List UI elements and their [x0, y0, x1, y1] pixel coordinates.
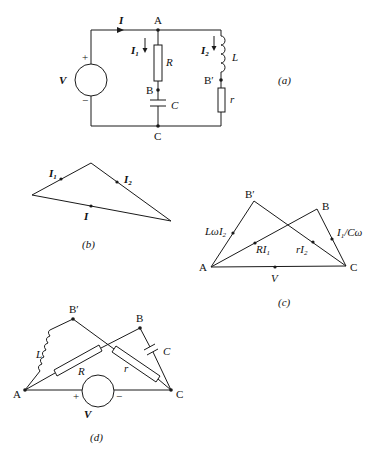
node-dot	[156, 88, 160, 92]
caption-a: (a)	[278, 74, 291, 87]
wire	[25, 373, 55, 390]
caption-d: (d)	[90, 431, 103, 444]
label-I1-over-Cw: I1/Cω	[336, 226, 363, 240]
arrow-icon	[115, 180, 118, 183]
arrow-down-icon	[212, 46, 217, 51]
label-node-A: A	[154, 14, 162, 26]
figure-b-current-triangle: I1 I2 I (b)	[32, 163, 171, 251]
figure-d-bridge-circuit: B′ B A C L R r C V + − (d)	[13, 303, 183, 444]
label-I2: I2	[123, 173, 132, 187]
node-dot	[156, 124, 160, 128]
label-node-B-prime: B′	[245, 188, 255, 200]
label-node-A: A	[13, 388, 21, 400]
node-dot	[156, 28, 160, 32]
label-I1: I1	[130, 44, 139, 58]
label-I: I	[83, 210, 89, 222]
label-C: C	[163, 345, 171, 357]
label-R: R	[77, 365, 85, 377]
label-r: r	[230, 93, 235, 105]
label-node-C: C	[350, 261, 357, 273]
arrow-icon	[273, 265, 276, 268]
label-L: L	[35, 348, 42, 360]
resistor-R	[154, 45, 162, 81]
label-node-B-prime: B′	[204, 74, 214, 86]
figure-c-voltage-diagram: B′ B A C LωI2 RI1 rI2 I1/Cω V (c)	[199, 188, 363, 309]
wire	[101, 328, 140, 348]
wire	[153, 352, 171, 390]
label-LwI2: LωI2	[204, 225, 227, 239]
wire	[25, 371, 40, 390]
label-r: r	[124, 362, 129, 374]
label-node-B: B	[146, 84, 153, 96]
label-V: V	[59, 74, 68, 86]
label-node-C: C	[176, 388, 183, 400]
top-wire	[91, 30, 221, 36]
label-node-B: B	[136, 312, 143, 324]
voltage-source	[75, 64, 107, 96]
label-C: C	[171, 99, 179, 111]
label-I: I	[118, 14, 124, 26]
label-minus: −	[116, 390, 122, 402]
label-L: L	[231, 51, 238, 63]
capacitor-C	[144, 344, 158, 355]
label-plus: +	[82, 51, 88, 63]
label-I1: I1	[48, 167, 57, 181]
wire	[158, 379, 171, 390]
arrow-icon	[59, 177, 62, 180]
label-plus: +	[73, 390, 79, 402]
label-minus: −	[82, 94, 88, 106]
node-dot	[138, 326, 142, 330]
label-RI1: RI1	[255, 243, 270, 257]
node-dot	[169, 388, 173, 392]
caption-b: (b)	[82, 238, 95, 251]
label-node-A: A	[199, 261, 207, 273]
node-dot	[23, 388, 27, 392]
arrow-icon	[117, 27, 124, 33]
arrow-icon	[231, 231, 234, 234]
figure-a-circuit: I A I1 R B C C I2 L B′ r V + − (a)	[59, 14, 291, 142]
voltage-source	[82, 375, 114, 407]
label-node-B-prime: B′	[69, 303, 79, 315]
arrow-icon	[89, 204, 92, 207]
label-V: V	[271, 272, 279, 284]
caption-c: (c)	[278, 296, 291, 309]
label-I2: I2	[200, 44, 209, 58]
node-dot	[71, 317, 75, 321]
arrow-icon	[330, 237, 333, 240]
arrow-down-icon	[143, 48, 148, 53]
resistor-r	[218, 88, 225, 112]
circuit-figure: I A I1 R B C C I2 L B′ r V + − (a) I1 I2…	[0, 0, 375, 454]
wire	[52, 319, 73, 329]
label-node-B: B	[322, 200, 329, 212]
arrow-icon	[311, 240, 314, 243]
label-node-C: C	[154, 130, 161, 142]
label-V: V	[84, 408, 93, 420]
label-R: R	[165, 56, 173, 68]
capacitor-C	[150, 100, 166, 106]
label-rI2: rI2	[296, 243, 308, 257]
wire	[140, 328, 150, 347]
node-dot	[219, 78, 223, 82]
